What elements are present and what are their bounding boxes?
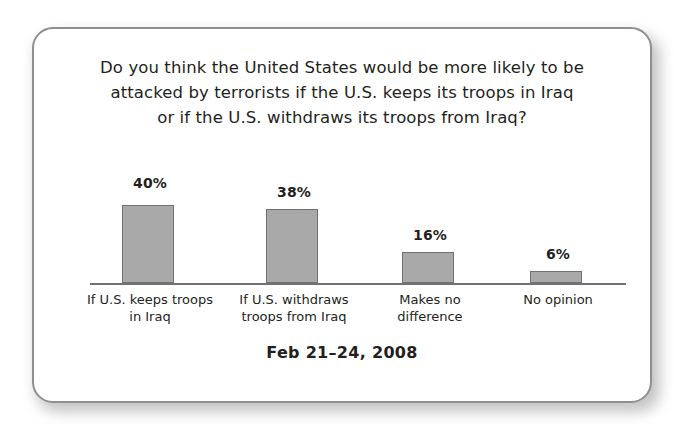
bar-2 <box>402 252 454 283</box>
bar-group-3: 6% <box>506 149 610 285</box>
category-label-0-line-2: in Iraq <box>78 308 222 325</box>
chart-card: Do you think the United States would be … <box>32 27 652 403</box>
category-label-2: Makes no difference <box>364 291 496 325</box>
category-label-1-line-1: If U.S. withdraws <box>222 291 366 308</box>
category-label-1-line-2: troops from Iraq <box>222 308 366 325</box>
bar-group-1: 38% <box>242 149 346 285</box>
category-label-2-line-2: difference <box>364 308 496 325</box>
category-label-0-line-1: If U.S. keeps troops <box>78 291 222 308</box>
category-label-3: No opinion <box>494 291 622 308</box>
bar-1 <box>266 209 318 283</box>
bar-0 <box>122 205 174 283</box>
bar-group-2: 16% <box>378 149 482 285</box>
chart-date-note: Feb 21–24, 2008 <box>34 343 650 362</box>
category-label-3-line-1: No opinion <box>494 291 622 308</box>
category-label-2-line-1: Makes no <box>364 291 496 308</box>
bar-3 <box>530 271 582 283</box>
bar-group-0: 40% <box>98 149 202 285</box>
category-label-0: If U.S. keeps troops in Iraq <box>78 291 222 325</box>
chart-screenshot: Do you think the United States would be … <box>0 0 685 434</box>
category-label-1: If U.S. withdraws troops from Iraq <box>222 291 366 325</box>
